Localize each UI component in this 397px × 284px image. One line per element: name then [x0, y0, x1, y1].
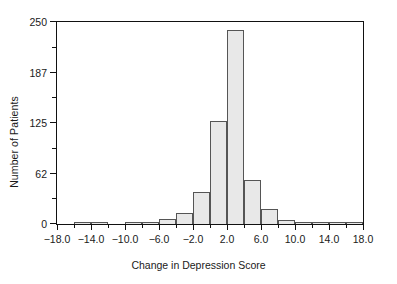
x-axis-tick: [193, 224, 194, 230]
x-axis-tick-label: −10.0: [112, 233, 139, 245]
x-axis-tick-label: −6.0: [149, 233, 170, 245]
y-axis-minor-tick: [52, 47, 57, 48]
x-axis-tick-label: 10.0: [285, 233, 305, 245]
histogram-bar: [193, 192, 210, 224]
histogram-bar: [142, 222, 159, 224]
x-axis-minor-tick: [210, 224, 211, 228]
x-axis-minor-tick: [176, 224, 177, 228]
x-axis-tick-label: 14.0: [319, 233, 339, 245]
histogram-bar: [312, 222, 329, 224]
x-axis-tick-label: −18.0: [44, 233, 71, 245]
histogram-bar: [244, 180, 261, 224]
y-axis-minor-tick: [52, 97, 57, 98]
plot-area: 062125187250−18.0−14.0−10.0−6.0−2.02.06.…: [56, 21, 364, 225]
x-axis-tick-label: 18.0: [353, 233, 373, 245]
histogram-bar: [159, 219, 176, 224]
x-axis-tick-label: 6.0: [254, 233, 269, 245]
y-axis-title: Number of Patients: [4, 0, 24, 284]
histogram-bar: [74, 222, 91, 224]
x-axis-tick: [125, 224, 126, 230]
histogram-bar: [261, 209, 278, 224]
histogram-bar: [176, 213, 193, 224]
histogram-bar: [227, 30, 244, 224]
x-axis-tick-label: 2.0: [220, 233, 235, 245]
y-axis-tick-label: 0: [41, 218, 47, 230]
y-axis-minor-tick: [52, 148, 57, 149]
x-axis-minor-tick: [244, 224, 245, 228]
y-axis-tick: [50, 72, 57, 73]
x-axis-tick: [159, 224, 160, 230]
x-axis-minor-tick: [142, 224, 143, 228]
y-axis-tick: [50, 122, 57, 123]
y-axis-tick-label: 187: [29, 67, 47, 79]
x-axis-title: Change in Depression Score: [0, 259, 397, 271]
x-axis-tick: [363, 224, 364, 230]
histogram-bar: [346, 222, 363, 224]
x-axis-minor-tick: [108, 224, 109, 228]
y-axis-tick-label: 250: [29, 16, 47, 28]
histogram-bar: [210, 121, 227, 224]
y-axis-minor-tick: [52, 198, 57, 199]
x-axis-tick: [261, 224, 262, 230]
x-axis-tick: [227, 224, 228, 230]
y-axis-tick: [50, 173, 57, 174]
histogram-bar: [278, 220, 295, 224]
x-axis-tick: [295, 224, 296, 230]
y-axis-tick: [50, 21, 57, 22]
x-axis-tick: [329, 224, 330, 230]
bars-layer: [57, 22, 363, 224]
histogram-bar: [91, 222, 108, 224]
x-axis-minor-tick: [278, 224, 279, 228]
y-axis-tick-label: 62: [35, 168, 47, 180]
x-axis-tick-label: −14.0: [78, 233, 105, 245]
x-axis-minor-tick: [74, 224, 75, 228]
histogram-bar: [295, 222, 312, 224]
histogram-figure: Number of Patients 062125187250−18.0−14.…: [0, 0, 397, 284]
x-axis-tick-label: −2.0: [183, 233, 204, 245]
histogram-bar: [329, 222, 346, 224]
x-axis-minor-tick: [346, 224, 347, 228]
y-axis-tick-label: 125: [29, 117, 47, 129]
x-axis-minor-tick: [312, 224, 313, 228]
histogram-bar: [125, 222, 142, 224]
x-axis-tick: [91, 224, 92, 230]
x-axis-tick: [57, 224, 58, 230]
y-axis-tick: [50, 223, 57, 224]
